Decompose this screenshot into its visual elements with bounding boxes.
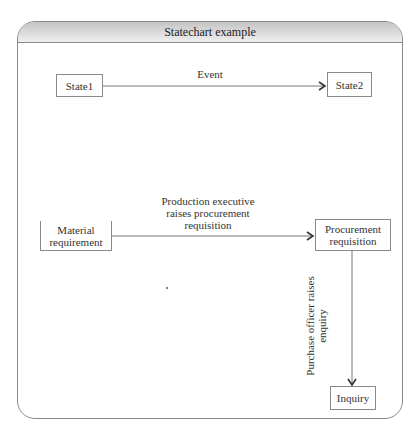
material-requirement-label: Material requirement	[46, 224, 106, 248]
event-label: Event	[150, 68, 270, 80]
inquiry-box: Inquiry	[330, 386, 376, 410]
state2-box: State2	[327, 72, 372, 97]
state1-box: State1	[56, 74, 103, 97]
state2-label: State2	[336, 79, 364, 91]
procurement-requisition-box: Procurement requisition	[315, 219, 391, 251]
state1-label: State1	[66, 80, 94, 92]
procurement-transition-label: Production executive raises procurement …	[148, 195, 268, 231]
procurement-requisition-label: Procurement requisition	[318, 223, 388, 247]
material-requirement-box: Material requirement	[40, 221, 112, 251]
inquiry-label: Inquiry	[337, 392, 369, 404]
enquiry-transition-label: Purchase officer raises enquiry	[304, 276, 328, 376]
